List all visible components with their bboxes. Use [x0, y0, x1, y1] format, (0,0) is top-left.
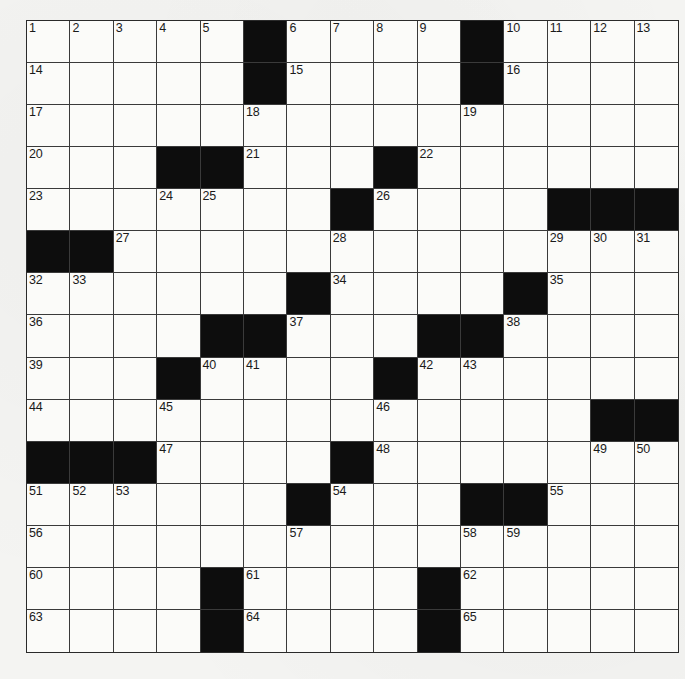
crossword-cell[interactable]	[591, 273, 634, 315]
crossword-cell[interactable]	[635, 610, 678, 652]
crossword-cell[interactable]: 34	[331, 273, 374, 315]
crossword-cell[interactable]: 46	[374, 400, 417, 442]
crossword-cell[interactable]	[635, 568, 678, 610]
crossword-cell[interactable]	[201, 231, 244, 273]
crossword-cell[interactable]	[635, 63, 678, 105]
crossword-cell[interactable]	[201, 400, 244, 442]
crossword-cell[interactable]	[331, 147, 374, 189]
crossword-cell[interactable]	[591, 315, 634, 357]
crossword-cell[interactable]: 17	[27, 105, 70, 147]
crossword-cell[interactable]	[374, 610, 417, 652]
crossword-cell[interactable]	[461, 400, 504, 442]
crossword-cell[interactable]	[635, 105, 678, 147]
crossword-cell[interactable]: 44	[27, 400, 70, 442]
crossword-cell[interactable]	[548, 568, 591, 610]
crossword-cell[interactable]: 48	[374, 442, 417, 484]
crossword-cell[interactable]	[591, 526, 634, 568]
crossword-cell[interactable]	[287, 442, 330, 484]
crossword-cell[interactable]	[374, 231, 417, 273]
crossword-cell[interactable]: 8	[374, 21, 417, 63]
crossword-cell[interactable]	[331, 358, 374, 400]
crossword-cell[interactable]: 16	[504, 63, 547, 105]
crossword-cell[interactable]: 24	[157, 189, 200, 231]
crossword-cell[interactable]	[418, 63, 461, 105]
crossword-cell[interactable]: 21	[244, 147, 287, 189]
crossword-cell[interactable]	[157, 63, 200, 105]
crossword-cell[interactable]	[201, 526, 244, 568]
crossword-cell[interactable]	[635, 526, 678, 568]
crossword-cell[interactable]: 45	[157, 400, 200, 442]
crossword-cell[interactable]	[504, 147, 547, 189]
crossword-cell[interactable]	[70, 189, 113, 231]
crossword-cell[interactable]: 30	[591, 231, 634, 273]
crossword-cell[interactable]	[504, 105, 547, 147]
crossword-cell[interactable]	[548, 147, 591, 189]
crossword-cell[interactable]	[244, 273, 287, 315]
crossword-cell[interactable]	[331, 105, 374, 147]
crossword-cell[interactable]: 22	[418, 147, 461, 189]
crossword-cell[interactable]	[591, 105, 634, 147]
crossword-cell[interactable]: 47	[157, 442, 200, 484]
crossword-cell[interactable]: 58	[461, 526, 504, 568]
crossword-cell[interactable]	[374, 484, 417, 526]
crossword-cell[interactable]: 13	[635, 21, 678, 63]
crossword-cell[interactable]	[374, 273, 417, 315]
crossword-cell[interactable]: 42	[418, 358, 461, 400]
crossword-cell[interactable]	[70, 358, 113, 400]
crossword-cell[interactable]: 4	[157, 21, 200, 63]
crossword-cell[interactable]	[635, 273, 678, 315]
crossword-cell[interactable]	[331, 63, 374, 105]
crossword-cell[interactable]	[287, 610, 330, 652]
crossword-cell[interactable]	[418, 400, 461, 442]
crossword-cell[interactable]	[331, 610, 374, 652]
crossword-cell[interactable]	[418, 105, 461, 147]
crossword-cell[interactable]	[244, 189, 287, 231]
crossword-cell[interactable]	[418, 273, 461, 315]
crossword-cell[interactable]	[157, 568, 200, 610]
crossword-cell[interactable]	[70, 610, 113, 652]
crossword-cell[interactable]	[70, 147, 113, 189]
crossword-cell[interactable]	[287, 105, 330, 147]
crossword-cell[interactable]: 15	[287, 63, 330, 105]
crossword-cell[interactable]	[374, 63, 417, 105]
crossword-cell[interactable]: 51	[27, 484, 70, 526]
crossword-cell[interactable]: 1	[27, 21, 70, 63]
crossword-cell[interactable]	[548, 315, 591, 357]
crossword-cell[interactable]: 33	[70, 273, 113, 315]
crossword-cell[interactable]	[70, 568, 113, 610]
crossword-cell[interactable]: 26	[374, 189, 417, 231]
crossword-cell[interactable]: 63	[27, 610, 70, 652]
crossword-cell[interactable]: 20	[27, 147, 70, 189]
crossword-cell[interactable]	[244, 442, 287, 484]
crossword-cell[interactable]	[504, 231, 547, 273]
crossword-cell[interactable]: 60	[27, 568, 70, 610]
crossword-cell[interactable]	[70, 315, 113, 357]
crossword-cell[interactable]	[548, 358, 591, 400]
crossword-cell[interactable]	[157, 526, 200, 568]
crossword-cell[interactable]: 35	[548, 273, 591, 315]
crossword-cell[interactable]: 3	[114, 21, 157, 63]
crossword-cell[interactable]	[331, 568, 374, 610]
crossword-cell[interactable]	[635, 358, 678, 400]
crossword-cell[interactable]: 39	[27, 358, 70, 400]
crossword-cell[interactable]	[635, 484, 678, 526]
crossword-cell[interactable]	[287, 231, 330, 273]
crossword-cell[interactable]	[635, 315, 678, 357]
crossword-cell[interactable]	[157, 610, 200, 652]
crossword-cell[interactable]: 56	[27, 526, 70, 568]
crossword-cell[interactable]	[114, 610, 157, 652]
crossword-cell[interactable]	[548, 610, 591, 652]
crossword-cell[interactable]: 7	[331, 21, 374, 63]
crossword-cell[interactable]	[244, 526, 287, 568]
crossword-cell[interactable]: 40	[201, 358, 244, 400]
crossword-cell[interactable]	[461, 231, 504, 273]
crossword-cell[interactable]	[548, 442, 591, 484]
crossword-cell[interactable]: 32	[27, 273, 70, 315]
crossword-cell[interactable]	[504, 358, 547, 400]
crossword-cell[interactable]	[418, 189, 461, 231]
crossword-cell[interactable]: 54	[331, 484, 374, 526]
crossword-cell[interactable]	[548, 63, 591, 105]
crossword-cell[interactable]: 53	[114, 484, 157, 526]
crossword-cell[interactable]: 57	[287, 526, 330, 568]
crossword-cell[interactable]	[461, 273, 504, 315]
